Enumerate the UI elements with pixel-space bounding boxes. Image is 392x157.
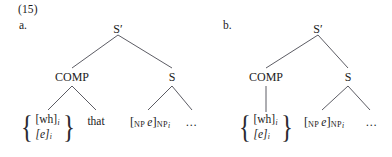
terminal-a-empty-np: [NP e]NPi — [130, 116, 170, 130]
open-bracket-label: NP — [308, 120, 319, 129]
feature-row-empty: [e]i — [35, 128, 59, 143]
node-a-comp: COMP — [55, 71, 89, 83]
feature-row-wh: [wh]i — [35, 113, 59, 128]
branch-a-s-np — [148, 86, 172, 110]
branch-b-s-ellipsis — [348, 86, 370, 110]
close-bracket-label: NP — [157, 120, 168, 129]
node-a-s-bar: S′ — [113, 23, 123, 35]
tree-label-a: a. — [19, 19, 27, 31]
feature-rows: [wh]i [e]i — [252, 113, 278, 142]
close-bracket-glyph: ] — [152, 115, 156, 129]
node-b-comp: COMP — [249, 71, 283, 83]
close-bracket-index: i — [168, 121, 170, 130]
brace-right-icon: } — [63, 115, 75, 140]
terminal-a-feature-set: { [wh]i [e]i } — [20, 113, 77, 142]
terminal-b-empty-np: [NP e]NPi — [304, 116, 344, 130]
feature-row-wh: [wh]i — [253, 113, 277, 128]
syntax-tree-figure: (15) a. b. S′ COMP S { [wh]i [e]i } — [0, 0, 392, 157]
terminal-a-ellipsis: … — [186, 116, 199, 128]
feature-row-empty: [e]i — [253, 128, 277, 143]
close-bracket-label: NP — [331, 120, 342, 129]
close-bracket-glyph: ] — [326, 115, 330, 129]
branch-b-s-np — [322, 86, 348, 110]
node-b-s: S — [345, 71, 352, 83]
node-a-s: S — [169, 71, 176, 83]
terminal-b-feature-set: { [wh]i [e]i } — [238, 113, 295, 142]
open-bracket-label: NP — [134, 120, 145, 129]
branch-a-comp-features — [48, 86, 72, 110]
node-b-s-bar: S′ — [313, 23, 323, 35]
brace-left-icon: { — [21, 115, 33, 140]
tree-label-b: b. — [223, 19, 232, 31]
branch-b-root-comp — [266, 35, 318, 68]
example-number: (15) — [18, 3, 38, 15]
branch-a-root-comp — [72, 35, 118, 68]
branch-a-root-s — [118, 35, 172, 68]
terminal-a-complementizer: that — [87, 116, 104, 128]
feature-rows: [wh]i [e]i — [34, 113, 60, 142]
close-bracket-index: i — [342, 121, 344, 130]
branch-a-s-ellipsis — [172, 86, 192, 110]
branch-a-comp-that — [72, 86, 96, 110]
terminal-b-ellipsis: … — [366, 116, 379, 128]
brace-left-icon: { — [239, 115, 251, 140]
branch-b-root-s — [318, 35, 348, 68]
brace-right-icon: } — [281, 115, 293, 140]
